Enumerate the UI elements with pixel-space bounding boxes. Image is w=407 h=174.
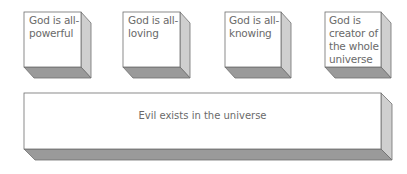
base-block-label: Evil exists in the universe (24, 110, 381, 121)
block-label-all-knowing: God is all- knowing (229, 14, 279, 40)
block-label-all-loving: God is all- loving (128, 14, 178, 40)
block-label-all-powerful: God is all- powerful (29, 14, 79, 40)
block-evil-exists (24, 93, 392, 160)
block-label-creator: God is creator of the whole universe (329, 14, 379, 66)
